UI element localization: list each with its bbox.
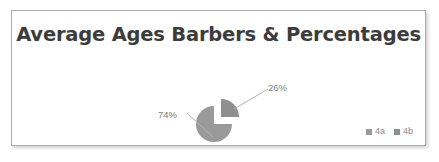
legend-label-4b: 4b — [403, 127, 413, 136]
legend-item-4a[interactable]: 4a — [366, 127, 385, 136]
data-label-4a: 74% — [158, 109, 177, 120]
data-label-4b: 26% — [268, 82, 287, 93]
pie-chart-plot-area: 74% 26% — [12, 63, 427, 147]
legend-label-4a: 4a — [375, 127, 385, 136]
legend-item-4b[interactable]: 4b — [394, 127, 413, 136]
legend-swatch-icon-4a — [366, 129, 372, 135]
chart-legend: 4a 4b — [366, 127, 413, 136]
legend-swatch-icon-4b — [394, 129, 400, 135]
pie-chart-svg — [12, 63, 427, 147]
chart-frame: Average Ages Barbers & Percentages 74% 2… — [11, 10, 426, 146]
chart-title: Average Ages Barbers & Percentages — [12, 23, 425, 46]
leader-line-4b — [234, 89, 268, 109]
